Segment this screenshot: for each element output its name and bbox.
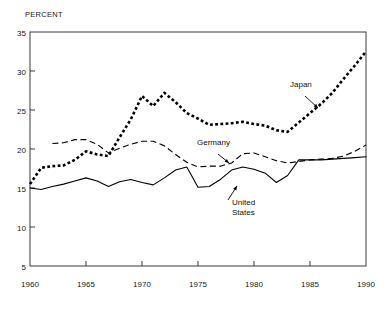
plot-frame bbox=[30, 32, 366, 266]
annotation-arrowhead-united-states bbox=[233, 186, 237, 191]
series-line-united-states bbox=[30, 157, 366, 190]
plot-area bbox=[0, 0, 392, 312]
series-line-germany bbox=[52, 140, 366, 167]
series-line-japan bbox=[30, 52, 366, 185]
chart-container: PERCENT 35 30 25 20 15 10 5 1960 1965 19… bbox=[0, 0, 392, 312]
